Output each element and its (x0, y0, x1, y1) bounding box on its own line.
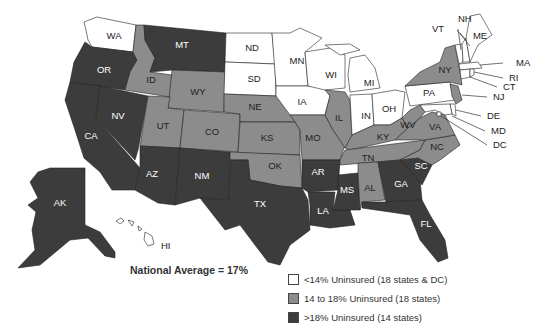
state-label-ct: CT (503, 81, 516, 92)
state-label-il: IL (335, 112, 343, 123)
state-fl (362, 200, 448, 262)
state-label-al: AL (364, 182, 376, 193)
state-label-wy: WY (190, 86, 206, 97)
state-ri (470, 69, 474, 77)
state-label-ma: MA (516, 57, 531, 68)
legend-item-low: <14% Uninsured (18 states & DC) (288, 270, 447, 289)
state-label-nv: NV (111, 110, 125, 121)
state-label-mt: MT (175, 39, 189, 50)
state-label-az: AZ (146, 168, 158, 179)
state-label-sd: SD (247, 73, 260, 84)
state-label-me: ME (473, 30, 487, 41)
state-label-mn: MN (290, 55, 305, 66)
state-ak (18, 168, 115, 268)
state-label-pa: PA (423, 87, 436, 98)
state-label-ar: AR (311, 166, 324, 177)
national-average-note: National Average = 17% (130, 264, 248, 276)
state-label-ny: NY (438, 64, 452, 75)
state-label-oh: OH (382, 103, 396, 114)
state-dc (437, 112, 441, 116)
legend-item-high: >18% Uninsured (14 states) (288, 308, 447, 327)
state-label-sc: SC (414, 160, 427, 171)
state-label-tn: TN (362, 152, 375, 163)
state-label-ga: GA (394, 178, 408, 189)
state-label-ca: CA (84, 130, 98, 141)
state-label-la: LA (317, 205, 329, 216)
state-label-or: OR (97, 64, 111, 75)
state-label-mi: MI (364, 77, 375, 88)
state-label-tx: TX (254, 198, 267, 209)
state-label-nc: NC (430, 141, 444, 152)
legend-swatch-high (288, 312, 299, 323)
state-label-ia: IA (298, 96, 308, 107)
state-label-nd: ND (245, 42, 259, 53)
state-label-id: ID (146, 74, 156, 85)
state-label-ms: MS (340, 184, 354, 195)
legend-swatch-low (288, 274, 299, 285)
state-label-hi: HI (161, 240, 171, 251)
state-label-ok: OK (268, 160, 282, 171)
state-label-ut: UT (157, 120, 170, 131)
state-label-co: CO (205, 126, 219, 137)
state-ct (460, 69, 470, 79)
state-label-de: DE (487, 110, 500, 121)
legend-label-mid: 14 to 18% Uninsured (18 states) (304, 293, 440, 304)
state-label-md: MD (491, 125, 506, 136)
state-label-mo: MO (305, 132, 320, 143)
state-label-in: IN (361, 110, 371, 121)
state-label-fl: FL (420, 218, 431, 229)
state-label-ne: NE (248, 101, 261, 112)
state-label-ky: KY (377, 131, 390, 142)
legend-item-mid: 14 to 18% Uninsured (18 states) (288, 289, 447, 308)
state-label-ak: AK (54, 197, 67, 208)
legend-label-high: >18% Uninsured (14 states) (304, 312, 422, 323)
state-ny (405, 45, 462, 86)
state-hi (116, 218, 154, 246)
legend-swatch-mid (288, 293, 299, 304)
state-label-vt: VT (432, 23, 444, 34)
state-label-nh: NH (458, 13, 472, 24)
state-label-nm: NM (195, 170, 210, 181)
legend-label-low: <14% Uninsured (18 states & DC) (304, 274, 447, 285)
state-label-nj: NJ (493, 91, 505, 102)
legend: <14% Uninsured (18 states & DC) 14 to 18… (288, 270, 447, 327)
state-label-wa: WA (107, 30, 123, 41)
state-label-wv: WV (400, 119, 416, 130)
state-nj (450, 84, 462, 104)
state-label-wi: WI (325, 69, 337, 80)
state-label-va: VA (429, 121, 442, 132)
us-uninsured-map: WAORCANVIDMTWYUTCOAZNMNDSDNEKSOKTXMNIAMO… (0, 0, 533, 335)
state-label-ks: KS (261, 132, 274, 143)
state-label-dc: DC (493, 139, 507, 150)
